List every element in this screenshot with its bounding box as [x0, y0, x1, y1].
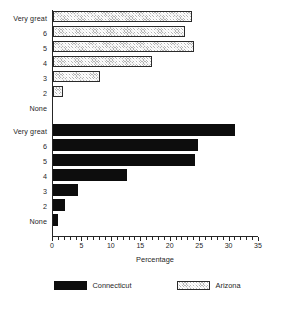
category-label: 6 [43, 28, 47, 37]
bar-connecticut-4 [53, 169, 127, 181]
x-tick-minor [181, 237, 182, 240]
x-tick-minor [152, 237, 153, 240]
x-tick-label: 30 [225, 242, 233, 249]
bar-connecticut-none [53, 214, 58, 226]
category-label: 3 [43, 73, 47, 82]
legend-label-connecticut: Connecticut [92, 281, 131, 290]
bar-arizona-4 [53, 56, 152, 67]
x-tick-major [258, 237, 259, 241]
bar-connecticut-6 [53, 139, 198, 151]
bar-row: 5 [52, 153, 258, 168]
x-tick-minor [187, 237, 188, 240]
bar-connecticut-5 [53, 154, 195, 166]
x-tick-minor [93, 237, 94, 240]
x-tick-minor [146, 237, 147, 240]
category-label: Very great [13, 126, 47, 135]
x-axis-title: Percentage [52, 255, 258, 264]
bar-arizona-very-great [53, 11, 192, 22]
x-tick-minor [64, 237, 65, 240]
x-tick-label: 25 [195, 242, 203, 249]
category-label: 5 [43, 156, 47, 165]
x-tick-label: 0 [50, 242, 54, 249]
x-tick-minor [205, 237, 206, 240]
x-tick-major [229, 237, 230, 241]
x-tick-minor [105, 237, 106, 240]
x-tick-label: 20 [166, 242, 174, 249]
x-tick-label: 10 [107, 242, 115, 249]
x-tick-minor [211, 237, 212, 240]
x-tick-minor [164, 237, 165, 240]
bar-row: 5 [52, 40, 258, 55]
category-label: None [29, 216, 47, 225]
x-tick-minor [217, 237, 218, 240]
x-tick-major [140, 237, 141, 241]
bar-row: 3 [52, 183, 258, 198]
category-label: 6 [43, 141, 47, 150]
x-tick-minor [70, 237, 71, 240]
x-tick-label: 35 [254, 242, 262, 249]
bar-connecticut-3 [53, 184, 78, 196]
bar-row: Very great [52, 123, 258, 138]
bar-row: None [52, 213, 258, 228]
x-tick-minor [134, 237, 135, 240]
x-tick-label: 5 [79, 242, 83, 249]
category-label: 4 [43, 58, 47, 67]
x-tick-minor [87, 237, 88, 240]
x-tick-minor [158, 237, 159, 240]
bar-row: 3 [52, 70, 258, 85]
chart-legend: Connecticut Arizona [0, 281, 295, 290]
category-label: 2 [43, 201, 47, 210]
bar-chart-figure: Very great65432NoneVery great65432None 0… [0, 0, 295, 312]
bar-arizona-2 [53, 86, 63, 97]
bar-row: Very great [52, 10, 258, 25]
x-tick-minor [129, 237, 130, 240]
bar-row: 6 [52, 25, 258, 40]
x-tick-major [199, 237, 200, 241]
x-tick-minor [76, 237, 77, 240]
bar-row: 2 [52, 85, 258, 100]
category-label: 4 [43, 171, 47, 180]
x-tick-label: 15 [136, 242, 144, 249]
legend-swatch-arizona [177, 281, 210, 290]
bar-arizona-3 [53, 71, 100, 82]
x-axis-line [52, 236, 258, 237]
x-tick-minor [223, 237, 224, 240]
category-label: Very great [13, 13, 47, 22]
plot-area: Very great65432NoneVery great65432None 0… [52, 10, 258, 236]
legend-item-arizona[interactable]: Arizona [177, 281, 240, 290]
bar-arizona-6 [53, 26, 185, 37]
category-label: None [29, 103, 47, 112]
x-tick-minor [58, 237, 59, 240]
x-tick-minor [99, 237, 100, 240]
legend-swatch-connecticut [54, 281, 87, 290]
category-label: 5 [43, 43, 47, 52]
x-tick-minor [240, 237, 241, 240]
x-tick-major [111, 237, 112, 241]
x-tick-minor [123, 237, 124, 240]
x-tick-major [52, 237, 53, 241]
bar-row: None [52, 100, 258, 115]
x-tick-minor [117, 237, 118, 240]
x-tick-minor [252, 237, 253, 240]
bar-connecticut-2 [53, 199, 65, 211]
category-label: 2 [43, 88, 47, 97]
x-tick-major [81, 237, 82, 241]
bar-row: 2 [52, 198, 258, 213]
bar-connecticut-very-great [53, 124, 235, 136]
x-tick-minor [176, 237, 177, 240]
bar-row: 4 [52, 168, 258, 183]
x-tick-minor [234, 237, 235, 240]
bar-arizona-5 [53, 41, 194, 52]
x-tick-minor [193, 237, 194, 240]
x-tick-major [170, 237, 171, 241]
category-label: 3 [43, 186, 47, 195]
bar-row: 4 [52, 55, 258, 70]
x-tick-minor [246, 237, 247, 240]
bar-row: 6 [52, 138, 258, 153]
legend-label-arizona: Arizona [215, 281, 240, 290]
legend-item-connecticut[interactable]: Connecticut [54, 281, 131, 290]
